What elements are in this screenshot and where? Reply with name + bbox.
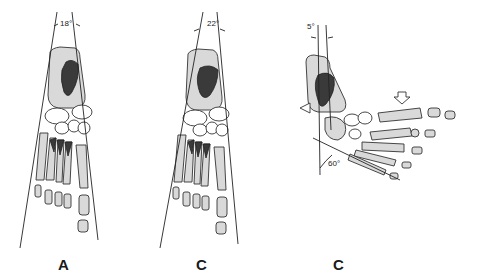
panel-b [160, 12, 238, 248]
angle-label-c-top: 5° [307, 22, 315, 31]
foot-diagram: 18° A 22° C [0, 0, 482, 277]
panel-label-b: C [196, 256, 207, 273]
panel-label-c: C [333, 256, 344, 273]
angle-label-b: 22° [207, 19, 219, 28]
angle-label-a: 18° [60, 19, 72, 28]
panel-c [300, 25, 455, 180]
panel-label-a: A [58, 256, 69, 273]
angle-label-c-bottom: 60° [328, 159, 340, 168]
panel-a [20, 12, 98, 248]
